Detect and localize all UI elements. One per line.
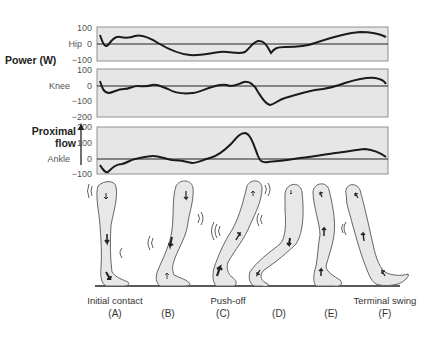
phase-e-letter: (E) — [316, 308, 346, 319]
phase-f-letter: (F) — [370, 308, 400, 319]
hip-power-plot — [97, 27, 388, 61]
leg-a — [88, 182, 129, 286]
knee-power-plot — [97, 69, 388, 117]
phase-a-label: Initial contact — [80, 295, 150, 306]
ankle-power-plot — [97, 127, 388, 174]
phase-c-letter: (C) — [208, 308, 238, 319]
phase-a-letter: (A) — [100, 308, 130, 319]
phase-c-label: Push-off — [198, 295, 258, 306]
leg-f — [342, 185, 409, 286]
figure-graphics — [0, 0, 435, 337]
leg-b — [148, 181, 203, 286]
leg-e — [313, 184, 342, 286]
phase-f-label: Terminal swing — [345, 295, 425, 306]
phase-b-letter: (B) — [153, 308, 183, 319]
phase-d-letter: (D) — [264, 308, 294, 319]
up-arrow-icon — [78, 123, 84, 165]
